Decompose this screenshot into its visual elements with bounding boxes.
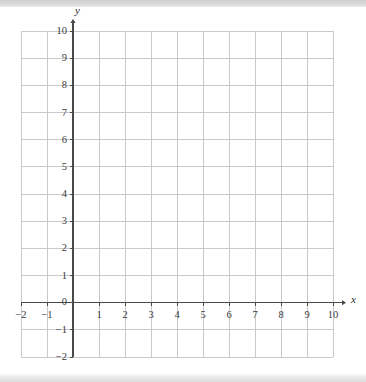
x-tick-label: 1 <box>96 310 101 321</box>
x-tick-label: 9 <box>304 310 309 321</box>
x-tick-label: 8 <box>278 310 283 321</box>
y-tick-label: −2 <box>56 352 67 363</box>
x-tick-label: 3 <box>148 310 153 321</box>
y-tick-label: 9 <box>62 53 67 64</box>
x-tick-label: 6 <box>226 310 231 321</box>
x-axis-label: x <box>351 294 356 305</box>
y-tick-label: 1 <box>62 270 67 281</box>
y-tick-label: 2 <box>62 243 67 254</box>
coordinate-grid-figure: −2−112345678910−2−1123456789100 <box>0 0 366 382</box>
x-tick-label: 10 <box>328 310 339 321</box>
y-tick-label: 10 <box>57 26 68 37</box>
x-tick-label: 2 <box>122 310 127 321</box>
y-axis-label: y <box>75 5 80 16</box>
figure-page: −2−112345678910−2−1123456789100 x y <box>0 0 366 382</box>
x-tick-label: −1 <box>41 310 52 321</box>
y-tick-label: 6 <box>62 134 67 145</box>
y-tick-label: −1 <box>56 325 67 336</box>
axes-group <box>21 19 346 357</box>
x-tick-label: 7 <box>252 310 257 321</box>
y-axis-arrowhead <box>70 19 75 23</box>
y-tick-label: 5 <box>62 162 67 173</box>
origin-label: 0 <box>62 296 67 307</box>
y-tick-label: 7 <box>62 107 67 118</box>
x-tick-label: 4 <box>174 310 179 321</box>
y-tick-label: 4 <box>62 189 67 200</box>
x-axis-arrowhead <box>342 300 346 305</box>
x-tick-label: 5 <box>200 310 205 321</box>
y-tick-label: 8 <box>62 80 67 91</box>
x-tick-label: −2 <box>15 310 26 321</box>
y-tick-label: 3 <box>62 216 67 227</box>
